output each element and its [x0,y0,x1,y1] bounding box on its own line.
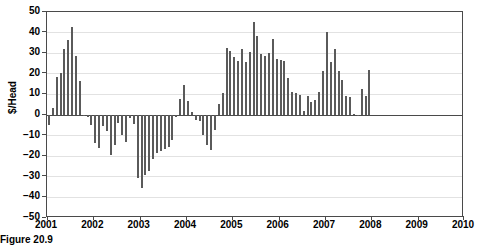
bar [307,96,309,115]
bar [114,115,116,145]
bar [256,36,258,115]
bar [322,71,324,115]
bar [287,78,289,115]
bar [338,71,340,115]
bar [245,62,247,115]
bar [144,115,146,175]
bar [310,102,312,115]
x-tick-label: 2001 [26,219,66,230]
y-tick-label: −10 [4,130,40,140]
bar [268,53,270,115]
x-tick-label: 2002 [72,219,112,230]
bar [168,115,170,147]
bar [291,92,293,115]
bar [191,112,193,115]
bar [152,115,154,159]
bar [280,60,282,115]
bar [314,100,316,115]
x-tick-label: 2009 [397,219,437,230]
x-tick-label: 2004 [165,219,205,230]
bar [218,104,220,115]
bar [241,49,243,115]
bar [141,115,143,188]
bar [48,115,50,125]
x-tick-label: 2007 [304,219,344,230]
bar [75,56,77,115]
bar [276,59,278,115]
bar [125,115,127,142]
x-tick-label: 2006 [258,219,298,230]
bar [71,27,73,115]
y-tick-label: 50 [4,6,40,16]
bar [202,115,204,135]
bar [87,115,89,117]
bar [175,115,177,117]
bar [214,115,216,130]
bar [179,99,181,115]
bar [164,115,166,149]
bar [229,51,231,115]
bar [361,89,363,115]
bar [237,61,239,115]
bar [199,115,201,121]
bar [83,115,85,116]
bar [357,115,359,116]
bar [226,48,228,115]
y-tick-label: 20 [4,68,40,78]
plot-area [46,11,463,217]
bar [67,40,69,115]
y-tick-label: −20 [4,150,40,160]
bar [156,115,158,153]
bar [195,115,197,120]
bar [334,49,336,115]
bar [330,62,332,115]
bar [60,73,62,115]
bar [94,115,96,143]
bar [210,115,212,150]
figure-caption: Figure 20.9 [0,234,53,246]
bar [349,97,351,115]
y-tick-label: −40 [4,191,40,201]
bar [353,114,355,115]
x-tick-label: 2008 [350,219,390,230]
bar [233,57,235,115]
y-tick-label: 30 [4,47,40,57]
bar [365,96,367,115]
bar [253,22,255,115]
bar [206,115,208,145]
y-tick-label: 10 [4,88,40,98]
bar [303,111,305,115]
bar [295,93,297,115]
x-tick-label: 2003 [119,219,159,230]
bar [260,54,262,115]
bar [121,115,123,135]
bar [106,115,108,131]
y-tick-label: −30 [4,171,40,181]
y-tick-label: 40 [4,27,40,37]
bar-series [47,12,462,216]
bar [137,115,139,178]
bar [90,115,92,125]
bar [345,96,347,115]
bar [110,115,112,155]
bar [52,108,54,115]
bar [160,115,162,151]
bar [299,95,301,115]
bar [129,115,131,118]
y-tick-label: 0 [4,109,40,119]
bar [283,61,285,115]
bar [133,115,135,124]
bar [341,80,343,115]
bar [171,115,173,140]
bar [117,115,119,123]
bar [272,39,274,115]
bar [183,85,185,115]
x-tick-label: 2010 [443,219,479,230]
bar [56,77,58,115]
bar [148,115,150,171]
bar [264,56,266,115]
x-tick-label: 2005 [211,219,251,230]
x-axis-tick-labels: 2001200220032004200520062007200820092010 [0,219,474,235]
bar [326,32,328,115]
